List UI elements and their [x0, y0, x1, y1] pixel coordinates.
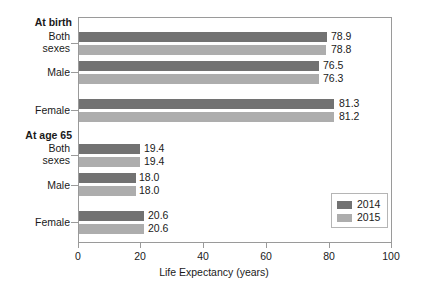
bar-2015-female-birth — [79, 112, 334, 122]
legend-entry-2014: 2014 — [337, 198, 387, 211]
bar-value-2014-both-sexes-birth: 78.9 — [331, 31, 351, 42]
category-label-male-birth: Male — [47, 67, 70, 79]
legend-swatch-2014-icon — [337, 201, 352, 209]
category-label-male-65: Male — [47, 180, 70, 192]
life-expectancy-bar-chart: At birth At age 65 Both sexes Male Femal… — [0, 0, 428, 291]
x-tick-60 — [266, 243, 267, 248]
legend-label-2015: 2015 — [357, 212, 380, 223]
category-label-line2: sexes — [43, 43, 70, 55]
bar-value-2014-female-birth: 81.3 — [339, 98, 359, 109]
x-tick-label-100: 100 — [371, 250, 411, 262]
x-axis-title: Life Expectancy (years) — [0, 266, 428, 278]
legend-label-2014: 2014 — [357, 199, 380, 210]
bar-2015-both-sexes-65 — [79, 157, 140, 167]
category-label-both-sexes-65: Both sexes — [43, 143, 70, 166]
bar-2014-female-birth — [79, 99, 334, 109]
category-label-line1: Both — [48, 142, 70, 154]
bar-value-2014-both-sexes-65: 19.4 — [144, 143, 164, 154]
group-heading-at-age-65: At age 65 — [25, 129, 72, 141]
category-label-both-sexes-birth: Both sexes — [43, 31, 70, 54]
category-tick-female-65 — [71, 222, 79, 223]
bar-value-2015-female-birth: 81.2 — [339, 111, 359, 122]
bar-2015-male-65 — [79, 186, 136, 196]
bar-2015-female-65 — [79, 224, 144, 234]
bar-2015-male-birth — [79, 74, 319, 84]
group-heading-at-birth: At birth — [35, 16, 72, 28]
bar-2014-male-65 — [79, 173, 136, 183]
bar-value-2015-both-sexes-birth: 78.8 — [331, 44, 351, 55]
category-label-line1: Female — [35, 104, 70, 116]
x-tick-0 — [78, 243, 79, 248]
bar-value-2015-both-sexes-65: 19.4 — [144, 156, 164, 167]
category-label-line1: Female — [35, 216, 70, 228]
chart-legend: 2014 2015 — [331, 193, 388, 228]
category-label-female-65: Female — [35, 217, 70, 229]
legend-entry-2015: 2015 — [337, 211, 387, 224]
bar-value-2015-female-65: 20.6 — [148, 223, 168, 234]
category-tick-both-sexes-birth — [71, 43, 79, 44]
x-tick-label-80: 80 — [309, 250, 349, 262]
x-tick-20 — [140, 243, 141, 248]
x-tick-100 — [391, 243, 392, 248]
category-tick-both-sexes-65 — [71, 155, 79, 156]
category-tick-male-birth — [71, 72, 79, 73]
x-tick-label-20: 20 — [120, 250, 160, 262]
bar-value-2015-male-birth: 76.3 — [323, 73, 343, 84]
bar-2014-male-birth — [79, 61, 319, 71]
x-tick-label-60: 60 — [246, 250, 286, 262]
bar-2014-both-sexes-birth — [79, 32, 327, 42]
category-label-line1: Both — [48, 30, 70, 42]
category-tick-male-65 — [71, 185, 79, 186]
bar-value-2014-female-65: 20.6 — [148, 210, 168, 221]
x-tick-label-40: 40 — [183, 250, 223, 262]
category-label-line1: Male — [47, 179, 70, 191]
bar-value-2014-male-65: 18.0 — [139, 172, 159, 183]
legend-swatch-2015-icon — [337, 214, 352, 222]
x-tick-label-0: 0 — [58, 250, 98, 262]
category-tick-female-birth — [71, 110, 79, 111]
bar-value-2015-male-65: 18.0 — [139, 185, 159, 196]
bar-value-2014-male-birth: 76.5 — [323, 60, 343, 71]
category-label-line1: Male — [47, 66, 70, 78]
x-tick-40 — [203, 243, 204, 248]
category-label-line2: sexes — [43, 155, 70, 167]
bar-2015-both-sexes-birth — [79, 45, 326, 55]
x-tick-80 — [329, 243, 330, 248]
bar-2014-female-65 — [79, 211, 144, 221]
category-label-female-birth: Female — [35, 105, 70, 117]
bar-2014-both-sexes-65 — [79, 144, 140, 154]
